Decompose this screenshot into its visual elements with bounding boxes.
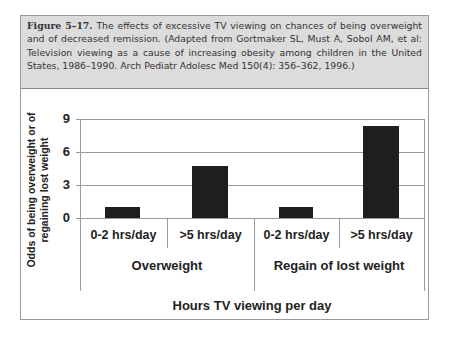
category-label: >5 hrs/day xyxy=(167,228,254,242)
y-tick-0: 0 xyxy=(50,211,70,225)
y-axis-label-line1: Odds of being overweight or of xyxy=(25,90,38,290)
x-axis-baseline xyxy=(76,218,424,219)
y-tick-6: 6 xyxy=(50,145,70,159)
category-label: >5 hrs/day xyxy=(339,228,424,242)
category-label: 0-2 hrs/day xyxy=(80,228,167,242)
y-tick-9: 9 xyxy=(50,112,70,126)
gridline-9 xyxy=(76,119,424,120)
bar-overweight-gt5 xyxy=(192,166,228,218)
y-axis-label-line2: regaining lost weight xyxy=(37,90,50,290)
figure-label: Figure 5–17. xyxy=(27,20,93,31)
group-label-overweight: Overweight xyxy=(80,258,254,273)
x-axis-title: Hours TV viewing per day xyxy=(80,298,424,313)
figure-caption: Figure 5–17. The effects of excessive TV… xyxy=(21,16,428,89)
group-label-regain: Regain of lost weight xyxy=(254,258,424,273)
category-label: 0-2 hrs/day xyxy=(254,228,339,242)
bar-regain-gt5 xyxy=(363,126,399,218)
bar-regain-0-2 xyxy=(279,207,313,218)
bar-overweight-0-2 xyxy=(105,207,140,218)
plot-right-edge xyxy=(424,119,425,291)
y-tick-3: 3 xyxy=(50,178,70,192)
y-axis-label: Odds of being overweight or of regaining… xyxy=(22,90,52,290)
